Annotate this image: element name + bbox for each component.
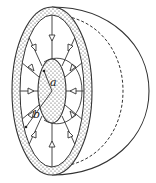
label-a: a	[50, 76, 57, 89]
label-b: b	[33, 108, 40, 121]
spherical-capacitor-diagram: a b	[0, 0, 156, 183]
